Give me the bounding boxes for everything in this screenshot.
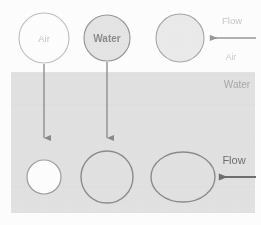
bubble-deformation-diagram: Air Water Flow Air Water Flow — [0, 0, 261, 225]
water-medium-label: Water — [224, 79, 251, 90]
figure-canvas: Air Water Flow Air Water Flow — [0, 0, 261, 225]
top-air-bubble-label: Air — [38, 33, 50, 44]
top-flow-label: Flow — [222, 15, 242, 26]
top-water-drop-label: Water — [93, 33, 121, 44]
air-medium-label: Air — [226, 52, 237, 62]
bottom-air-bubble — [27, 160, 61, 194]
bottom-flow-label: Flow — [222, 154, 245, 166]
top-flow-bubble — [156, 14, 204, 62]
